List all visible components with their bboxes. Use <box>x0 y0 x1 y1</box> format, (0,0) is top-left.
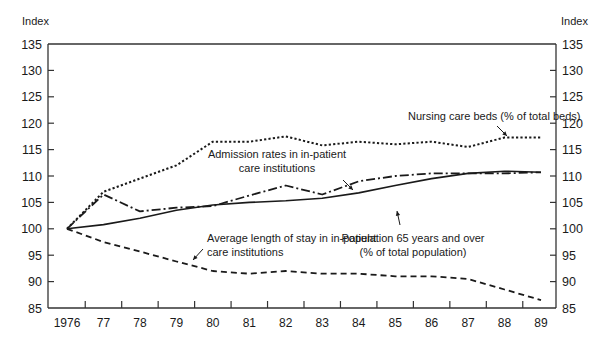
y-tick-label-right: 110 <box>562 170 582 184</box>
series-line-1 <box>67 172 541 229</box>
arrowhead-icon <box>396 211 400 216</box>
annotation-label: Nursing care beds (% of total beds) <box>408 110 580 122</box>
x-tick-label: 82 <box>279 316 293 330</box>
y-tick-label-left: 90 <box>28 275 42 289</box>
x-tick-label: 80 <box>206 316 220 330</box>
x-tick-label: 86 <box>425 316 439 330</box>
x-tick-label: 77 <box>97 316 111 330</box>
y-tick-label-right: 85 <box>562 302 576 316</box>
x-tick-label: 79 <box>170 316 184 330</box>
annotation-label: care institutions <box>207 246 284 258</box>
y-axis-title-left: Index <box>22 15 49 27</box>
annotation-label: Admission rates in in-patient <box>208 148 346 160</box>
y-tick-label-right: 105 <box>562 196 583 210</box>
y-tick-label-right: 90 <box>562 275 576 289</box>
x-tick-label: 84 <box>352 316 366 330</box>
x-tick-label: 1976 <box>54 316 81 330</box>
y-tick-label-right: 115 <box>562 143 582 157</box>
y-tick-label-right: 95 <box>562 249 576 263</box>
x-tick-label: 87 <box>461 316 475 330</box>
y-tick-label-right: 100 <box>562 222 583 236</box>
x-tick-label: 78 <box>133 316 147 330</box>
y-axis-title-right: Index <box>561 15 588 27</box>
y-tick-label-left: 85 <box>28 302 42 316</box>
y-tick-label-left: 135 <box>21 38 42 52</box>
x-tick-label: 83 <box>316 316 330 330</box>
annotations: Nursing care beds (% of total beds)Admis… <box>193 110 580 260</box>
y-tick-label-left: 115 <box>22 143 42 157</box>
y-tick-label-right: 135 <box>562 38 583 52</box>
annotation-label: care institutions <box>239 162 316 174</box>
annotation-label: (% of total population) <box>359 246 466 258</box>
series-group <box>67 136 541 300</box>
y-tick-label-left: 110 <box>22 170 42 184</box>
x-tick-label: 88 <box>498 316 512 330</box>
y-tick-label-left: 105 <box>21 196 42 210</box>
y-tick-label-left: 100 <box>21 222 42 236</box>
y-tick-label-right: 130 <box>562 64 583 78</box>
x-tick-label: 85 <box>388 316 402 330</box>
y-tick-label-left: 125 <box>21 90 42 104</box>
y-tick-label-left: 130 <box>21 64 42 78</box>
annotation-label: Average length of stay in in-patient <box>207 232 376 244</box>
x-tick-label: 89 <box>534 316 548 330</box>
x-tick-label: 81 <box>243 316 257 330</box>
line-chart: 8585909095951001001051051101101151151201… <box>0 0 608 345</box>
y-tick-label-left: 120 <box>21 117 42 131</box>
y-tick-label-right: 125 <box>562 90 583 104</box>
y-tick-label-left: 95 <box>28 249 42 263</box>
